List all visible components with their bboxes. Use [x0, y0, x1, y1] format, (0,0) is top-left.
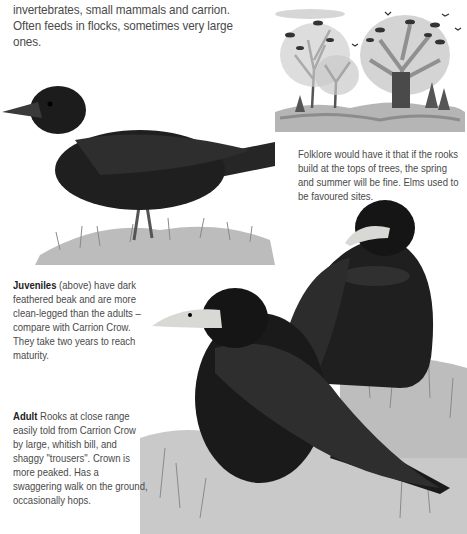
intro-text: invertebrates, small mammals and carrion… [13, 3, 233, 49]
folklore-text: Folklore would have it that if the rooks… [298, 148, 459, 202]
intro-paragraph: invertebrates, small mammals and carrion… [13, 2, 257, 50]
juveniles-caption: Juveniles (above) have dark feathered be… [13, 278, 148, 362]
adult-caption: Adult Rooks at close range easily told f… [13, 409, 148, 507]
adult-rooks-illustration [140, 198, 467, 534]
adult-lead: Adult [13, 410, 37, 422]
folklore-caption: Folklore would have it that if the rooks… [298, 147, 465, 203]
rookery-trees-illustration [270, 0, 467, 138]
juveniles-text: (above) have dark feathered beak and are… [13, 279, 141, 361]
adult-text: Rooks at close range easily told from Ca… [13, 410, 148, 506]
juveniles-lead: Juveniles [13, 279, 56, 291]
